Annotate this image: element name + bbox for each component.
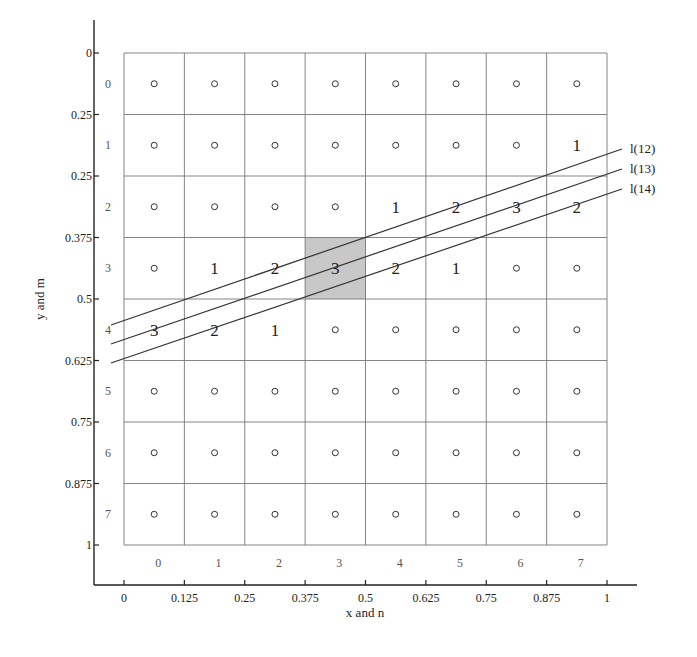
empty-cell-marker-icon [272,450,278,456]
row-index-label: 1 [105,138,111,152]
row-index-label: 0 [105,77,111,91]
empty-cell-marker-icon [513,327,519,333]
col-index-label: 7 [578,556,584,570]
empty-cell-marker-icon [151,204,157,210]
empty-cell-marker-icon [212,511,218,517]
empty-cell-marker-icon [332,511,338,517]
empty-cell-marker-icon [513,388,519,394]
y-tick-label: 0.625 [65,354,92,368]
x-tick-label: 0.625 [412,591,439,605]
grid-lines [124,53,607,545]
empty-cell-marker-icon [332,327,338,333]
y-axis-title: y and m [32,278,47,320]
empty-cell-marker-icon [151,81,157,87]
empty-cell-marker-icon [272,388,278,394]
empty-cell-marker-icon [393,81,399,87]
empty-cell-marker-icon [513,511,519,517]
x-tick-label: 0.375 [292,591,319,605]
empty-cell-marker-icon [574,81,580,87]
empty-cell-marker-icon [332,388,338,394]
x-tick-label: 0.75 [476,591,497,605]
projection-line [111,169,622,344]
empty-cell-marker-icon [151,511,157,517]
empty-cell-marker-icon [574,511,580,517]
y-tick-label: 0.5 [77,292,92,306]
cell-value: 2 [210,321,219,340]
cell-value: 1 [271,321,280,340]
col-index-label: 5 [457,556,463,570]
empty-cell-marker-icon [453,388,459,394]
empty-cell-marker-icon [574,450,580,456]
col-index-label: 1 [216,556,222,570]
col-index-label: 4 [397,556,403,570]
empty-cell-marker-icon [513,81,519,87]
row-index-label: 6 [105,446,111,460]
empty-cell-marker-icon [332,142,338,148]
x-tick-label: 0.875 [533,591,560,605]
y-tick-label: 0.875 [65,477,92,491]
col-index-label: 3 [336,556,342,570]
grid-diagram: 1123212321321 l(12)l(13)l(14) 00.250.250… [0,0,697,657]
col-index-label: 6 [517,556,523,570]
empty-cell-marker-icon [393,388,399,394]
col-index-label: 0 [155,556,161,570]
empty-cell-marker-icon [272,142,278,148]
empty-cell-marker-icon [151,450,157,456]
row-index-label: 3 [105,261,111,275]
x-tick-label: 0.125 [171,591,198,605]
empty-cell-marker-icon [212,450,218,456]
empty-cell-marker-icon [393,511,399,517]
empty-cell-marker-icon [272,81,278,87]
empty-cell-marker-icon [332,81,338,87]
empty-cell-marker-icon [513,142,519,148]
empty-cell-marker-icon [453,142,459,148]
y-tick-label: 0.375 [65,231,92,245]
y-tick-label: 1 [86,538,92,552]
x-tick-label: 0.5 [358,591,373,605]
cell-value: 1 [210,259,219,278]
row-index-label: 4 [105,323,111,337]
empty-cell-marker-icon [332,450,338,456]
x-axis-title: x and n [346,605,385,620]
empty-cell-marker-icon [212,142,218,148]
cell-value: 1 [391,198,400,217]
y-tick-label: 0.25 [71,108,92,122]
empty-cell-marker-icon [272,204,278,210]
cell-value: 3 [512,198,521,217]
cell-value: 2 [391,259,400,278]
empty-cell-marker-icon [574,265,580,271]
x-tick-label: 0 [121,591,127,605]
empty-cell-marker-icon [574,327,580,333]
empty-cell-marker-icon [513,450,519,456]
empty-cell-marker-icon [332,204,338,210]
empty-cell-marker-icon [212,388,218,394]
cell-value: 2 [573,198,582,217]
projection-line-label: l(12) [630,141,655,156]
row-index-label: 7 [105,507,111,521]
empty-cell-marker-icon [272,511,278,517]
axis-labels: 00.250.250.3750.50.6250.750.875100.1250.… [32,46,610,620]
empty-cell-marker-icon [212,204,218,210]
empty-cell-marker-icon [151,265,157,271]
x-tick-label: 0.25 [234,591,255,605]
projection-line-label: l(13) [630,161,655,176]
empty-cell-marker-icon [574,388,580,394]
y-tick-label: 0.25 [71,169,92,183]
empty-cell-marker-icon [453,327,459,333]
empty-cell-marker-icon [513,265,519,271]
col-index-label: 2 [276,556,282,570]
empty-cell-marker-icon [393,450,399,456]
projection-line-label: l(14) [630,181,655,196]
x-tick-label: 1 [604,591,610,605]
empty-cell-marker-icon [453,511,459,517]
row-index-label: 2 [105,200,111,214]
empty-cell-marker-icon [393,327,399,333]
empty-cell-marker-icon [453,81,459,87]
empty-cell-marker-icon [212,81,218,87]
empty-cell-marker-icon [151,142,157,148]
cell-value: 1 [452,259,461,278]
projection-line [111,189,622,363]
row-index-label: 5 [105,384,111,398]
y-tick-label: 0 [86,46,92,60]
cell-value: 1 [573,136,582,155]
